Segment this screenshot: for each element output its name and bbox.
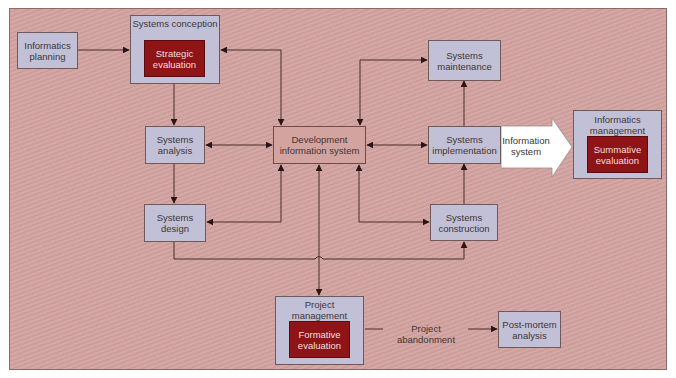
summative-evaluation-node: Summativeevaluation [587,136,648,173]
systems-conception-title: Systems conception [131,18,219,29]
project-abandonment-label: Project abandonment [384,323,468,345]
formative-evaluation-line1: Formative [298,329,340,340]
formative-evaluation-line2: evaluation [298,340,341,351]
informatics-management-title-line1: Informatics [594,114,640,125]
systems-maintenance-line2: maintenance [437,61,491,72]
development-info-line1: Development [292,134,348,145]
post-mortem-analysis-node: Post-mortemanalysis [498,311,561,348]
information-system-line1: Information [502,135,550,146]
post-mortem-line1: Post-mortem [502,319,556,330]
systems-analysis-line2: analysis [158,145,192,156]
systems-implementation-node: Systemsimplementation [428,126,501,164]
summative-evaluation-line2: evaluation [596,155,639,166]
systems-implementation-line1: Systems [446,134,482,145]
systems-maintenance-node: Systemsmaintenance [428,40,501,81]
systems-maintenance-line1: Systems [446,50,482,61]
informatics-management-title-line2: management [590,125,645,136]
information-system-line2: system [511,146,541,157]
informatics-management-title: Informaticsmanagement [574,114,661,136]
systems-construction-line1: Systems [446,212,482,223]
systems-design-line2: design [161,223,189,234]
systems-analysis-node: Systemsanalysis [145,126,205,164]
systems-analysis-line1: Systems [157,134,193,145]
information-system-arrow-label: Informationsystem [501,135,551,157]
systems-implementation-line2: implementation [432,145,496,156]
strategic-evaluation-line1: Strategic [156,48,194,59]
post-mortem-line2: analysis [512,330,546,341]
systems-construction-node: Systemsconstruction [430,204,498,241]
systems-design-line1: Systems [157,212,193,223]
strategic-evaluation-node: Strategicevaluation [144,40,205,77]
formative-evaluation-node: Formativeevaluation [289,321,350,358]
strategic-evaluation-line2: evaluation [153,59,196,70]
development-info-line2: information system [280,145,360,156]
development-information-system-node: Developmentinformation system [273,126,366,164]
informatics-planning-line1: Informatics [24,40,70,51]
project-management-title: Project management [276,299,363,321]
informatics-planning-node: Informaticsplanning [17,32,78,69]
informatics-planning-line2: planning [30,51,66,62]
systems-construction-line2: construction [438,223,489,234]
systems-design-node: Systemsdesign [144,204,206,242]
summative-evaluation-line1: Summative [594,144,642,155]
